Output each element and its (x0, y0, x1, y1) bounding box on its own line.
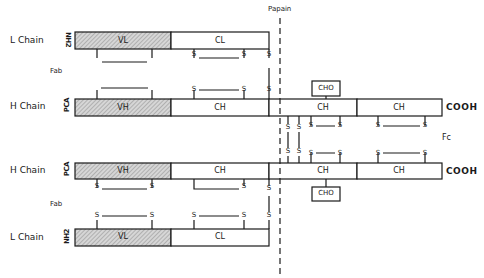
disulfide-s: S (265, 185, 273, 192)
disulfide-s: S (336, 150, 344, 157)
domain-cl-top: CL (210, 37, 230, 45)
disulfide-s: S (240, 212, 248, 219)
disulfide-s: S (190, 51, 198, 58)
disulfide-s: S (374, 122, 382, 129)
disulfide-s: S (190, 86, 198, 93)
disulfide-s: S (284, 148, 292, 155)
domain-ch2-bottom: CH (313, 167, 333, 175)
domain-ch3-bottom: CH (389, 167, 409, 175)
papain-label: Papain (268, 6, 291, 13)
disulfide-s: S (284, 124, 292, 131)
disulfide-s: S (93, 212, 101, 219)
domain-ch3-top: CH (389, 104, 409, 112)
disulfide-s: S (336, 122, 344, 129)
disulfide-s: S (295, 148, 303, 155)
disulfide-s: S (307, 122, 315, 129)
disulfide-s: S (148, 212, 156, 219)
disulfide-s: S (190, 212, 198, 219)
disulfide-s: S (93, 183, 101, 190)
disulfide-s: S (421, 150, 429, 157)
domain-ch1-bottom: CH (210, 167, 230, 175)
disulfide-s: S (265, 212, 273, 219)
chain-label-l-top: L Chain (10, 36, 44, 45)
chain-label-l-bottom: L Chain (10, 233, 44, 242)
domain-vl-top: VL (113, 37, 133, 45)
chain-label-h-bottom: H Chain (10, 166, 45, 175)
chain-label-h-top: H Chain (10, 102, 45, 111)
fc-label: Fc (442, 134, 451, 142)
disulfide-s: S (265, 51, 273, 58)
c-terminus-top: COOH (446, 103, 477, 112)
n-terminus-l-bottom: NH2 (64, 229, 71, 244)
disulfide-s: S (374, 150, 382, 157)
cho-top-label: CHO (312, 85, 340, 92)
n-terminus-l-top: NH2 (64, 32, 71, 47)
disulfide-s: S (240, 86, 248, 93)
domain-vh-bottom: VH (113, 167, 133, 175)
domain-ch1-top: CH (210, 104, 230, 112)
disulfide-s: S (265, 86, 273, 93)
fab-label-bottom: Fab (50, 201, 62, 208)
disulfide-s: S (240, 51, 248, 58)
antibody-diagram (0, 0, 484, 278)
c-terminus-bottom: COOH (446, 167, 477, 176)
domain-cl-bottom: CL (210, 233, 230, 241)
fab-label-top: Fab (50, 68, 62, 75)
disulfide-s: S (307, 150, 315, 157)
domain-vh-top: VH (113, 104, 133, 112)
disulfide-s: S (421, 122, 429, 129)
disulfide-s: S (148, 183, 156, 190)
n-terminus-h-bottom: PCA (64, 162, 71, 176)
domain-ch2-top: CH (313, 104, 333, 112)
disulfide-s: S (240, 183, 248, 190)
disulfide-s: S (295, 124, 303, 131)
cho-bottom-label: CHO (312, 190, 340, 197)
domain-vl-bottom: VL (113, 233, 133, 241)
n-terminus-h-top: PCA (64, 98, 71, 112)
